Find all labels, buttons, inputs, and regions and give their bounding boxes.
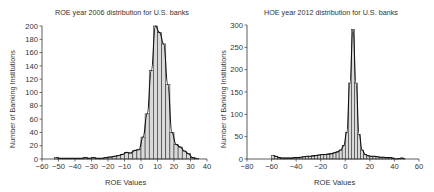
histogram-bar: [336, 152, 339, 159]
y-tick-label: 140: [25, 62, 38, 71]
y-tick-label: 180: [25, 35, 38, 44]
y-tick-label: 100: [25, 88, 38, 97]
x-tick-label: −20: [102, 162, 115, 171]
chart-title: HOE year 2012 distribution for U.S. bank…: [264, 8, 398, 17]
histogram-bar: [158, 33, 162, 159]
density-curve: [56, 26, 196, 158]
y-tick-label: 60: [30, 115, 38, 124]
histogram-bar: [339, 150, 342, 159]
y-tick-label: 300: [230, 21, 243, 30]
histogram-bar: [174, 144, 178, 159]
x-tick-label: 40: [390, 162, 398, 171]
histogram-bar: [129, 153, 133, 159]
x-tick-label: −40: [290, 162, 303, 171]
histogram-bar: [330, 154, 333, 159]
y-axis-label: Number of Banking Institutions: [8, 50, 17, 148]
histogram-bars: [54, 26, 198, 159]
histogram-2006: −60−50−40−30−20−100102030400204060801001…: [0, 0, 217, 192]
x-tick-label: 20: [366, 162, 374, 171]
x-tick-label: 60: [415, 162, 423, 171]
chart-right: −80−60−40−200204060050100150200250300 HO…: [217, 0, 434, 192]
x-axis-label: ROE Values: [105, 178, 146, 187]
x-tick-label: −60: [265, 162, 278, 171]
x-tick-label: 10: [153, 162, 161, 171]
y-tick-label: 250: [230, 43, 243, 52]
y-axis-label: Number of Banking Institutions: [219, 50, 228, 148]
y-tick-label: 0: [239, 155, 243, 164]
y-tick-label: 160: [25, 48, 38, 57]
x-tick-label: −30: [85, 162, 98, 171]
chart-left: −60−50−40−30−20−100102030400204060801001…: [0, 0, 217, 192]
x-tick-label: 40: [203, 162, 211, 171]
density-curve: [273, 29, 405, 159]
chart-title: ROE year 2006 distribution for U.S. bank…: [55, 8, 189, 17]
x-tick-label: 0: [343, 162, 347, 171]
histogram-bar: [327, 154, 330, 159]
y-tick-label: 80: [30, 101, 38, 110]
y-tick-label: 40: [30, 128, 38, 137]
y-tick-label: 0: [34, 155, 38, 164]
histogram-bar: [324, 155, 327, 159]
x-tick-label: −40: [69, 162, 82, 171]
x-axis-label: ROE Values: [314, 178, 355, 187]
x-tick-label: −20: [314, 162, 327, 171]
histogram-2012: −80−60−40−200204060050100150200250300: [217, 0, 434, 192]
y-tick-label: 50: [235, 132, 243, 141]
y-tick-label: 200: [25, 22, 38, 31]
x-tick-label: −10: [118, 162, 131, 171]
y-tick-label: 200: [230, 65, 243, 74]
x-tick-label: −50: [52, 162, 65, 171]
x-tick-label: 30: [186, 162, 194, 171]
x-tick-label: 0: [139, 162, 143, 171]
y-tick-label: 20: [30, 141, 38, 150]
x-tick-label: 20: [170, 162, 178, 171]
histogram-bar: [137, 150, 141, 159]
histogram-bars: [272, 29, 404, 159]
y-tick-label: 120: [25, 75, 38, 84]
y-tick-label: 100: [230, 110, 243, 119]
y-tick-label: 150: [230, 88, 243, 97]
histogram-bar: [333, 153, 336, 159]
